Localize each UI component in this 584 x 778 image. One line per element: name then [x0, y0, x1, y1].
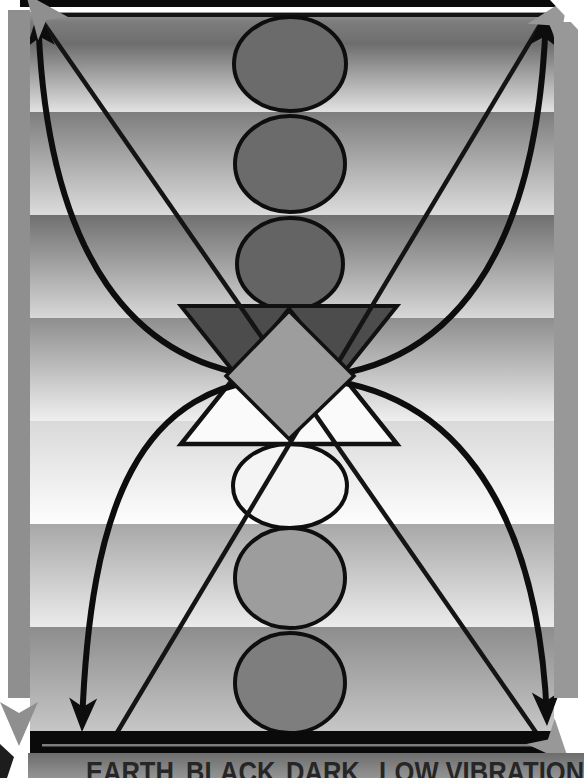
circle-bottom-2	[235, 528, 345, 628]
left-side-bar	[8, 10, 30, 698]
bottom-left-wedge	[0, 744, 14, 778]
circle-top-3	[237, 218, 343, 310]
right-side-bar	[554, 22, 578, 698]
circle-bottom-1	[233, 444, 347, 528]
top-black-bar	[20, 0, 556, 7]
diagram-stage: EARTH BLACK DARK LOW VIBRATION	[0, 0, 584, 778]
circle-bottom-3	[235, 633, 345, 733]
caption-low-vibration: LOW VIBRATION	[379, 757, 584, 778]
caption-black: BLACK	[186, 757, 275, 778]
bottom-black-bar	[30, 731, 554, 753]
circle-top-1	[234, 17, 346, 111]
vibration-diagram	[0, 0, 584, 778]
caption-band: EARTH BLACK DARK LOW VIBRATION	[28, 753, 584, 778]
circle-top-2	[235, 116, 345, 212]
caption-earth: EARTH	[86, 757, 174, 778]
caption-dark: DARK	[286, 757, 360, 778]
caption-row: EARTH BLACK DARK LOW VIBRATION	[28, 753, 584, 778]
bottom-bar-highlight	[42, 744, 542, 747]
